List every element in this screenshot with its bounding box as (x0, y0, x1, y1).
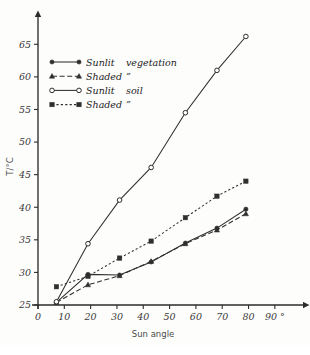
legend-item-2: Shaded” (49, 71, 131, 82)
series-4 (54, 179, 248, 289)
x-tick-label: 10 (58, 311, 70, 322)
legend-marker (50, 88, 55, 93)
y-tick-label: 60 (19, 71, 31, 82)
x-tick-label: 60 (190, 311, 202, 322)
x-tick-label: 70 (216, 311, 228, 322)
y-tick-label: 30 (19, 267, 31, 278)
x-axis-title: Sun angle (132, 329, 174, 339)
chart-figure: 2530354045505560650102030405060708090 ° … (0, 0, 310, 355)
data-series-group (54, 34, 249, 304)
legend-item-3: Sunlitsoil (50, 85, 143, 96)
series-line (56, 209, 245, 302)
data-point (117, 198, 122, 203)
data-point (149, 239, 153, 243)
y-tick-label: 35 (19, 234, 31, 245)
y-tick-label: 45 (18, 169, 31, 180)
legend-item-4: Shaded” (50, 99, 131, 110)
series-1 (54, 207, 248, 304)
legend-label: Sunlit (86, 57, 115, 68)
data-point (243, 211, 248, 216)
legend-label-secondary: ” (126, 71, 131, 82)
data-point (86, 274, 90, 278)
temperature-vs-sun-angle-chart: 2530354045505560650102030405060708090 ° … (0, 0, 310, 355)
legend-label-secondary: vegetation (126, 57, 177, 68)
y-tick-label: 25 (18, 299, 31, 310)
chart-legend: SunlitvegetationShaded”SunlitsoilShaded” (49, 57, 176, 111)
legend-marker (77, 88, 82, 93)
x-tick-label: 80 (242, 311, 254, 322)
x-tick-label: 50 (164, 311, 176, 322)
page-edge-strip (0, 345, 310, 355)
legend-label: Shaded (86, 99, 122, 110)
x-tick-label: 0 (35, 311, 41, 322)
y-tick-label: 55 (19, 104, 31, 115)
y-tick-label: 50 (19, 136, 31, 147)
legend-label: Shaded (86, 71, 122, 82)
data-point (54, 285, 58, 289)
y-axis-title: T/°C (5, 157, 15, 176)
data-point (117, 256, 121, 260)
legend-marker (77, 60, 81, 64)
legend-label-secondary: soil (126, 85, 143, 96)
legend-label-secondary: ” (126, 99, 131, 110)
x-tick-label: 20 (84, 311, 97, 322)
y-tick-label: 40 (18, 202, 31, 213)
data-point (54, 299, 59, 304)
legend-label: Sunlit (86, 85, 115, 96)
data-point (244, 34, 249, 39)
series-2 (54, 211, 249, 304)
legend-marker (77, 102, 81, 106)
data-point (183, 110, 188, 115)
data-point (215, 68, 220, 73)
legend-marker (50, 60, 54, 64)
data-point (183, 215, 187, 219)
x-tick-label: 90 ° (265, 311, 285, 322)
data-point (244, 179, 248, 183)
data-point (85, 282, 90, 287)
legend-item-1: Sunlitvegetation (50, 57, 177, 68)
legend-marker (50, 102, 54, 106)
x-tick-label: 40 (136, 311, 149, 322)
x-tick-label: 30 (111, 311, 123, 322)
data-point (149, 165, 154, 170)
y-tick-label: 65 (19, 39, 31, 50)
data-point (86, 241, 91, 246)
data-point (215, 194, 219, 198)
